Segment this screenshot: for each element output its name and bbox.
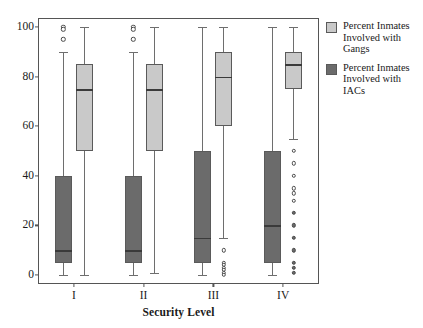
legend-swatch-iacs (326, 64, 337, 75)
box-outlier-point (222, 273, 226, 277)
legend-label-iacs-line1: Percent Inmates (343, 62, 410, 73)
chart-legend: Percent Inmates Involved with Gangs Perc… (326, 20, 422, 104)
box-median-line (194, 238, 211, 240)
box-outlier-point (291, 161, 295, 165)
box-outlier-point (291, 260, 295, 264)
box-rect (285, 52, 302, 89)
y-axis-tick-label: 20 (0, 220, 39, 232)
box-outlier-point (291, 174, 295, 178)
box-outlier-point (291, 265, 295, 269)
box-outlier-point (291, 198, 295, 202)
box-whisker-cap (219, 27, 228, 28)
y-axis-tick-label: 80 (0, 71, 39, 83)
plot-area: 020406080100IIIIIIIV (38, 18, 319, 284)
box-outlier-point (291, 211, 295, 215)
box-outlier-point (291, 236, 295, 240)
box-median-line (125, 250, 142, 252)
box-whisker-cap (219, 238, 228, 239)
x-axis-tick-mark (283, 283, 284, 287)
legend-label-iacs: Percent Inmates Involved with IACs (343, 62, 422, 97)
x-axis-tick-mark (143, 283, 144, 287)
box-whisker-cap (129, 275, 138, 276)
box-rect (215, 52, 232, 126)
box-whisker-cap (268, 275, 277, 276)
box-whisker-cap (268, 27, 277, 28)
x-axis-tick-label: I (72, 290, 76, 302)
y-axis-tick-mark (35, 274, 39, 275)
box-whisker-cap (198, 27, 207, 28)
x-axis-tick-mark (73, 283, 74, 287)
y-axis-tick-label: 40 (0, 170, 39, 182)
box-whisker-cap (59, 275, 68, 276)
y-axis-tick-mark (35, 225, 39, 226)
box-whisker-cap (289, 139, 298, 140)
box-median-line (215, 77, 232, 79)
box-whisker-cap (198, 275, 207, 276)
box-median-line (264, 225, 281, 227)
box-rect (194, 151, 211, 263)
box-outlier-point (131, 27, 135, 31)
box-rect (76, 64, 93, 151)
box-outlier-point (291, 223, 295, 227)
box-rect (264, 151, 281, 263)
box-outlier-point (61, 27, 65, 31)
legend-swatch-gangs (326, 22, 337, 33)
y-axis-tick-mark (35, 76, 39, 77)
y-axis-tick-label: 0 (0, 269, 39, 281)
box-median-line (146, 89, 163, 91)
box-whisker-cap (59, 52, 68, 53)
box-whisker-cap (80, 27, 89, 28)
box-outlier-point (291, 186, 295, 190)
box-median-line (285, 64, 302, 66)
y-axis-tick-mark (35, 26, 39, 27)
box-outlier-point (291, 191, 295, 195)
box-outlier-point (222, 248, 226, 252)
box-median-line (76, 89, 93, 91)
legend-label-gangs: Percent Inmates Involved with Gangs (343, 20, 422, 55)
box-outlier-point (291, 149, 295, 153)
y-axis-tick-label: 100 (0, 21, 39, 33)
box-whisker-cap (150, 273, 159, 274)
boxplot-figure: 020406080100IIIIIIIV Security Level Perc… (0, 0, 423, 328)
plot-inner: 020406080100IIIIIIIV (39, 19, 318, 283)
legend-label-gangs-line1: Percent Inmates (343, 20, 410, 31)
x-axis-tick-label: IV (277, 290, 289, 302)
box-whisker-cap (150, 27, 159, 28)
box-outlier-point (291, 270, 295, 274)
y-axis-tick-mark (35, 175, 39, 176)
y-axis-tick-label: 60 (0, 120, 39, 132)
box-whisker-cap (129, 52, 138, 53)
x-axis-tick-label: III (208, 290, 220, 302)
box-outlier-point (131, 37, 135, 41)
legend-label-gangs-line2: Involved with Gangs (343, 32, 401, 55)
legend-item-iacs: Percent Inmates Involved with IACs (326, 62, 422, 97)
legend-label-iacs-line2: Involved with IACs (343, 73, 401, 96)
x-axis-title: Security Level (38, 307, 319, 319)
box-rect (146, 64, 163, 151)
x-axis-tick-mark (213, 283, 214, 287)
box-outlier-point (291, 248, 295, 252)
box-whisker-cap (289, 27, 298, 28)
y-axis-tick-mark (35, 126, 39, 127)
box-outlier-point (61, 37, 65, 41)
x-axis-tick-label: II (140, 290, 148, 302)
box-median-line (55, 250, 72, 252)
legend-item-gangs: Percent Inmates Involved with Gangs (326, 20, 422, 55)
box-whisker-cap (80, 275, 89, 276)
